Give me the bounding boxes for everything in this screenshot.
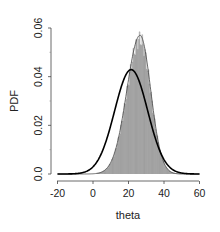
histogram-bar-set bbox=[97, 32, 183, 174]
x-tick-label: 60 bbox=[194, 187, 206, 199]
y-axis-ticks: 0.00.020.040.06 bbox=[32, 18, 51, 182]
x-tick-label: -20 bbox=[50, 187, 65, 199]
y-tick-label: 0.04 bbox=[32, 66, 44, 87]
x-axis-label: theta bbox=[116, 209, 141, 221]
x-axis-ticks: -200204060 bbox=[50, 181, 206, 199]
histogram-bars bbox=[97, 32, 183, 174]
y-tick-label: 0.06 bbox=[32, 18, 44, 39]
y-axis-label: PDF bbox=[8, 90, 20, 112]
x-tick-label: 40 bbox=[158, 187, 170, 199]
y-tick-label: 0.02 bbox=[32, 115, 44, 136]
density-plot: 0.00.020.040.06 -200204060 theta PDF bbox=[0, 0, 220, 232]
x-tick-label: 0 bbox=[90, 187, 96, 199]
y-tick-label: 0.0 bbox=[32, 167, 44, 182]
x-tick-label: 20 bbox=[123, 187, 135, 199]
